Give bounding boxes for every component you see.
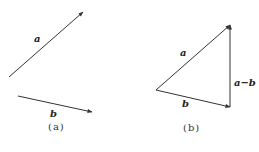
label-a-panel-a: a — [34, 34, 40, 44]
vector-a-arrow — [156, 25, 230, 90]
panel-b — [156, 25, 230, 107]
label-a-panel-b: a — [180, 48, 186, 58]
panel-a — [9, 12, 92, 112]
caption-panel-b: (b) — [183, 123, 200, 133]
label-a-minus-b: a−b — [234, 78, 256, 88]
caption-panel-a: (a) — [48, 122, 65, 132]
label-b-panel-b: b — [182, 99, 189, 109]
vector-a-arrow — [9, 12, 83, 77]
label-b-panel-a: b — [50, 109, 57, 119]
vector-diagram — [0, 0, 259, 152]
vector-b-arrow — [156, 90, 230, 107]
